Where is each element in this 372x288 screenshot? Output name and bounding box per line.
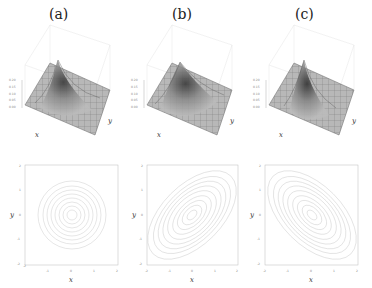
svg-text:0.10: 0.10 <box>131 92 138 96</box>
contour-plot-b: -2-1012 210-1-2 x y <box>131 155 252 284</box>
svg-text:0.10: 0.10 <box>9 92 16 96</box>
svg-text:2: 2 <box>116 269 118 273</box>
svg-text:-2: -2 <box>23 264 26 268</box>
svg-text:2: 2 <box>19 164 21 168</box>
svg-text:2: 2 <box>259 164 261 168</box>
svg-text:-2: -2 <box>263 269 266 273</box>
svg-text:-2: -2 <box>139 262 142 266</box>
surface-xlabel-a: x <box>35 131 39 139</box>
svg-text:0: 0 <box>141 213 143 217</box>
svg-text:0.05: 0.05 <box>131 98 138 102</box>
svg-text:x: x <box>190 276 194 284</box>
svg-text:-1: -1 <box>46 269 49 273</box>
svg-text:2: 2 <box>236 269 238 273</box>
svg-text:-1: -1 <box>139 237 142 241</box>
svg-text:0.20: 0.20 <box>253 78 260 82</box>
svg-text:1: 1 <box>333 269 335 273</box>
svg-text:0: 0 <box>19 213 21 217</box>
svg-text:-2: -2 <box>145 269 148 273</box>
svg-text:1: 1 <box>141 188 143 192</box>
svg-text:0.15: 0.15 <box>253 85 260 89</box>
surface-ylabel-b: y <box>229 117 235 125</box>
svg-text:1: 1 <box>214 269 216 273</box>
svg-text:0.05: 0.05 <box>9 98 16 102</box>
surface-plot-c: 0.20 0.15 0.10 0.05 0.00 x y <box>253 25 357 139</box>
svg-text:1: 1 <box>259 188 261 192</box>
surface-ylabel-a: y <box>107 117 113 125</box>
svg-text:-1: -1 <box>168 269 171 273</box>
svg-text:0: 0 <box>259 213 261 217</box>
svg-text:-1: -1 <box>17 237 20 241</box>
svg-text:0.15: 0.15 <box>9 85 16 89</box>
contour-plot-a: -2-1012 210-1-2 x y <box>9 164 118 284</box>
svg-text:2: 2 <box>141 164 143 168</box>
figure-canvas: 0.20 0.15 0.10 0.05 0.00 x y 0.20 0.15 0… <box>0 0 372 288</box>
svg-text:0.15: 0.15 <box>131 85 138 89</box>
svg-text:-1: -1 <box>286 269 289 273</box>
surface-xlabel-b: x <box>157 131 161 139</box>
svg-text:0: 0 <box>310 269 312 273</box>
surface-plot-b: 0.20 0.15 0.10 0.05 0.00 x y <box>131 25 235 139</box>
svg-text:0.00: 0.00 <box>9 105 16 109</box>
svg-text:0.10: 0.10 <box>253 92 260 96</box>
surface-xlabel-c: x <box>279 131 283 139</box>
svg-text:2: 2 <box>356 269 358 273</box>
surface-ylabel-c: y <box>351 117 357 125</box>
svg-text:y: y <box>249 211 255 219</box>
svg-text:x: x <box>69 276 73 284</box>
svg-text:0.20: 0.20 <box>9 78 16 82</box>
svg-text:y: y <box>9 211 15 219</box>
svg-text:1: 1 <box>93 269 95 273</box>
surface-plot-a: 0.20 0.15 0.10 0.05 0.00 x y <box>9 25 113 139</box>
contour-plot-c: -2-1012 210-1-2 x y <box>249 155 372 284</box>
svg-text:0.00: 0.00 <box>131 105 138 109</box>
svg-text:0: 0 <box>191 269 193 273</box>
svg-text:0.20: 0.20 <box>131 78 138 82</box>
svg-text:-2: -2 <box>17 262 20 266</box>
svg-text:0.00: 0.00 <box>253 105 260 109</box>
svg-text:1: 1 <box>19 188 21 192</box>
svg-text:0: 0 <box>70 269 72 273</box>
svg-text:y: y <box>131 211 137 219</box>
svg-text:x: x <box>309 276 313 284</box>
svg-text:-1: -1 <box>257 237 260 241</box>
svg-text:-2: -2 <box>257 262 260 266</box>
svg-text:0.05: 0.05 <box>253 98 260 102</box>
